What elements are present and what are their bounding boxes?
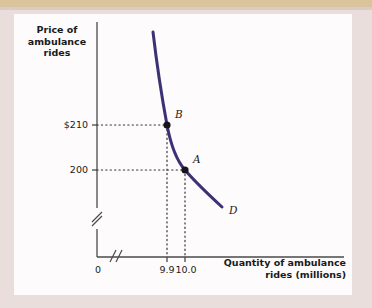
y-tick-label-200: 200: [48, 164, 88, 175]
y-axis-break-mark: [92, 212, 102, 226]
demand-curve: [153, 32, 222, 207]
y-axis-title: Price of ambulance rides: [21, 24, 93, 59]
chart-plot-area: Price of ambulance rides Quantity of amb…: [14, 14, 352, 295]
page-top-strip-shadow: [0, 7, 372, 10]
demand-curve-label: D: [229, 204, 237, 216]
data-point-b-dot: [163, 121, 170, 128]
x-tick-label-0: 0: [92, 264, 104, 275]
figure-panel: Price of ambulance rides Quantity of amb…: [14, 14, 352, 295]
y-tick-label-210: $210: [48, 119, 88, 130]
page-background: the Milbourne: [0, 0, 372, 308]
x-tick-label-10-0: 10.0: [171, 264, 201, 275]
data-point-label-a: A: [193, 153, 201, 165]
page-top-strip: [0, 0, 372, 7]
x-axis-title: Quantity of ambulance rides (millions): [210, 257, 346, 280]
x-axis-break-mark: [110, 250, 122, 262]
data-point-label-b: B: [175, 108, 183, 120]
data-point-a-dot: [181, 166, 188, 173]
